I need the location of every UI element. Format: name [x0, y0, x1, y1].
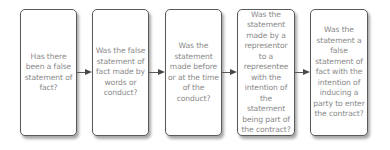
arrow-4-to-5: [295, 69, 310, 75]
step-text-4: Was the statement made by a representor …: [238, 10, 294, 136]
step-text-1: Has there been a false statement of fact…: [21, 52, 76, 94]
arrow-3-to-4: [222, 69, 237, 75]
step-box-3: Was the statement made before or at the …: [165, 9, 222, 136]
step-text-2: Was the false statement of fact made by …: [93, 46, 148, 99]
arrowhead-icon: [158, 69, 165, 75]
arrowhead-icon: [230, 69, 237, 75]
arrowhead-icon: [303, 69, 310, 75]
step-box-2: Was the false statement of fact made by …: [92, 9, 149, 136]
arrow-2-to-3: [149, 69, 165, 75]
step-text-5: Was the statement a false statement of f…: [311, 25, 367, 120]
step-box-5: Was the statement a false statement of f…: [310, 9, 368, 136]
step-text-3: Was the statement made before or at the …: [166, 41, 221, 104]
arrow-1-to-2: [77, 69, 92, 75]
step-box-4: Was the statement made by a representor …: [237, 9, 295, 136]
step-box-1: Has there been a false statement of fact…: [20, 9, 77, 136]
arrowhead-icon: [85, 69, 92, 75]
